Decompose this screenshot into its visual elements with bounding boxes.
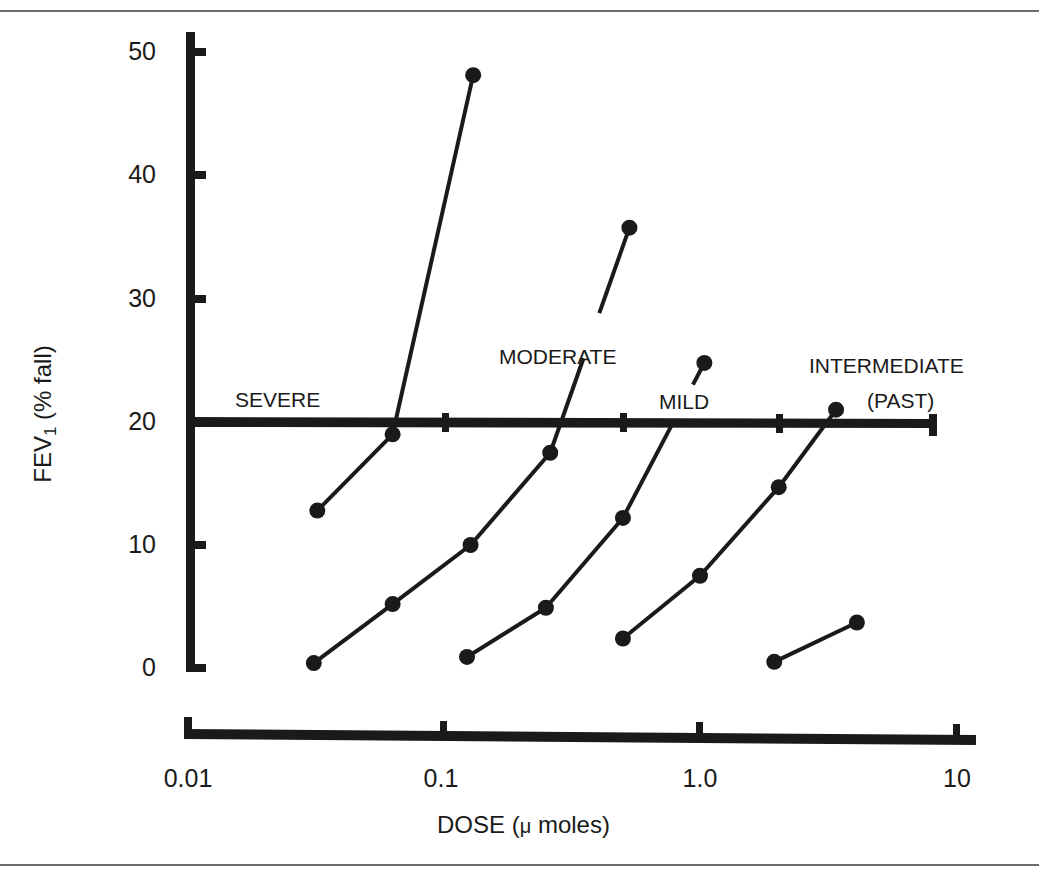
- data-point-marker: [465, 67, 481, 83]
- data-point-marker: [766, 654, 782, 670]
- series-line-segment: [700, 487, 779, 576]
- y-axis: [186, 32, 206, 672]
- x-tick-10: 10: [917, 766, 997, 791]
- series-line-segment: [623, 422, 673, 518]
- data-point-marker: [849, 614, 865, 630]
- data-point-marker: [538, 600, 554, 616]
- series-line-segment: [623, 576, 700, 639]
- data-point-marker: [463, 537, 479, 553]
- data-point-marker: [771, 479, 787, 495]
- series-line-segment: [550, 358, 583, 453]
- y-tick-50: 50: [96, 39, 156, 64]
- data-point-marker: [385, 426, 401, 442]
- data-point-marker: [621, 220, 637, 236]
- chart-plot: [0, 0, 1039, 876]
- x-axis-title: DOSE (μ moles): [437, 813, 610, 837]
- y-tick-0: 0: [96, 655, 156, 680]
- data-point-marker: [692, 568, 708, 584]
- series-line-segment: [467, 608, 546, 657]
- y-tick-10: 10: [96, 532, 156, 557]
- data-point-marker: [309, 503, 325, 519]
- x-axis: [184, 717, 976, 745]
- series-line-segment: [599, 228, 629, 314]
- x-tick-0.1: 0.1: [401, 766, 481, 791]
- data-point-marker: [306, 655, 322, 671]
- series-line-segment: [546, 518, 623, 608]
- x-tick-0.01: 0.01: [148, 766, 228, 791]
- series-line-segment: [393, 75, 474, 434]
- y-tick-20: 20: [96, 409, 156, 434]
- data-point-marker: [542, 445, 558, 461]
- x-tick-1.0: 1.0: [660, 766, 740, 791]
- data-point-marker: [615, 630, 631, 646]
- series-line-segment: [393, 545, 471, 604]
- y-axis-title: FEV1 (% fall): [31, 345, 59, 483]
- data-point-marker: [615, 510, 631, 526]
- series-line-segment: [774, 622, 857, 661]
- series-line-segment: [317, 434, 392, 510]
- y-tick-40: 40: [96, 162, 156, 187]
- data-series: [306, 67, 865, 671]
- data-point-marker: [385, 596, 401, 612]
- label-intermediate: INTERMEDIATE: [809, 355, 964, 376]
- data-point-marker: [459, 649, 475, 665]
- data-point-marker: [696, 355, 712, 371]
- label-moderate: MODERATE: [499, 346, 616, 367]
- series-line-segment: [314, 604, 393, 663]
- y-tick-30: 30: [96, 286, 156, 311]
- series-line-segment: [471, 453, 551, 545]
- label-mild: MILD: [659, 391, 709, 412]
- label-severe: SEVERE: [235, 389, 320, 410]
- label-past: (PAST): [867, 390, 934, 411]
- data-point-marker: [828, 402, 844, 418]
